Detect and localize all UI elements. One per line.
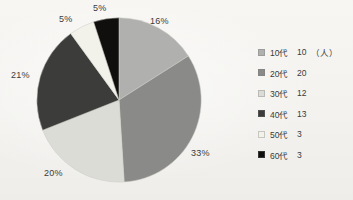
slice-label-10dai: 16% [150,16,169,26]
legend-item-label: 20代 [270,67,297,79]
legend-item-value: 10 [297,47,310,57]
legend-swatch-icon [258,69,265,76]
legend-item-value: 13 [297,109,310,119]
legend-item-40代[interactable]: 40代13 [258,104,350,125]
slice-label-30dai: 20% [44,168,63,178]
legend-item-10代[interactable]: 10代10（人） [258,42,350,63]
legend-item-label: 30代 [270,87,297,99]
legend-item-value: 3 [297,150,310,160]
legend-swatch-icon [258,49,265,56]
legend-swatch-icon [258,151,265,158]
legend-item-label: 60代 [270,149,297,161]
slice-label-50dai: 5% [59,14,72,24]
legend-item-label: 50代 [270,128,297,140]
chart-page: 16% 33% 20% 21% 5% 5% 10代10（人）20代2030代12… [0,0,353,200]
legend-unit-label: （人） [311,46,338,58]
legend-item-20代[interactable]: 20代20 [258,63,350,84]
legend-item-30代[interactable]: 30代12 [258,83,350,104]
legend-swatch-icon [258,90,265,97]
legend-item-60代[interactable]: 60代3 [258,145,350,166]
pie-slice-group [37,18,201,182]
slice-label-20dai: 33% [191,148,210,158]
legend-item-label: 40代 [270,108,297,120]
slice-label-40dai: 21% [11,70,30,80]
legend-swatch-icon [258,110,265,117]
legend-item-50代[interactable]: 50代3 [258,124,350,145]
chart-legend: 10代10（人）20代2030代1240代1350代360代3 [258,42,350,165]
slice-label-60dai: 5% [93,3,106,13]
legend-item-value: 20 [297,68,310,78]
legend-item-value: 12 [297,88,310,98]
pie-chart-svg [36,17,202,183]
legend-item-label: 10代 [270,46,297,58]
pie-chart [36,17,202,183]
legend-item-value: 3 [297,129,310,139]
legend-swatch-icon [258,131,265,138]
